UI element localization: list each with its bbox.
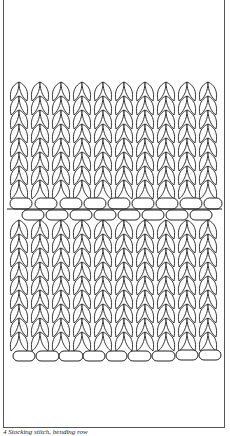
bending-row-lower	[22, 210, 212, 220]
lower-stitch-block	[10, 220, 216, 351]
upper-stitch-block	[10, 82, 216, 199]
bending-row-upper	[10, 198, 222, 209]
stocking-stitch-illustration	[0, 0, 230, 436]
cast-on-row	[13, 350, 221, 361]
figure-caption: 4 Stocking stitch, bending row	[3, 428, 88, 436]
